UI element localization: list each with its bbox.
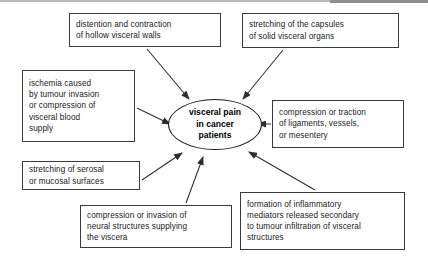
- node-stretching-serosal[interactable]: stretching of serosal or mucosal surface…: [22, 161, 140, 190]
- node-line: distention and contraction: [76, 19, 214, 30]
- node-distention-contraction[interactable]: distention and contraction of hollow vis…: [69, 13, 221, 47]
- arrow-capsules-to-center: [243, 50, 283, 99]
- node-line: formation of inflammatory: [247, 199, 398, 210]
- node-compression-invasion-neural[interactable]: compression or invasion of neural struct…: [80, 205, 232, 248]
- center-node-line: patients: [199, 130, 232, 141]
- node-line: stretching of the capsules: [249, 19, 392, 30]
- node-line: compression or invasion of: [87, 210, 225, 221]
- node-line: of hollow visceral walls: [76, 30, 214, 41]
- node-line: or compression of: [29, 100, 128, 111]
- node-line: by tumour invasion: [29, 89, 128, 100]
- node-line: visceral blood: [29, 112, 128, 123]
- center-node-line: in cancer: [196, 119, 234, 130]
- node-ischemia[interactable]: ischemia caused by tumour invasion or co…: [22, 70, 135, 142]
- arrow-ischemia-to-center: [137, 108, 170, 124]
- node-line: of ligaments, vessels,: [279, 118, 397, 129]
- node-stretching-capsules[interactable]: stretching of the capsules of solid visc…: [242, 13, 399, 48]
- node-line: to tumour infiltration of visceral: [247, 221, 398, 232]
- node-line: or mesentery: [279, 130, 397, 141]
- node-line: ischemia caused: [29, 78, 128, 89]
- node-inflammatory-mediators[interactable]: formation of inflammatory mediators rele…: [240, 192, 405, 250]
- diagram-canvas: distention and contraction of hollow vis…: [0, 0, 428, 265]
- node-line: stretching of serosal: [29, 164, 133, 175]
- arrow-neural-to-center: [186, 157, 203, 203]
- node-line: mediators released secondary: [247, 210, 398, 221]
- node-line: neural structures supplying: [87, 221, 225, 232]
- node-line: structures: [247, 232, 398, 243]
- node-compression-traction-ligaments[interactable]: compression or traction of ligaments, ve…: [272, 100, 404, 148]
- arrow-distention-to-center: [147, 49, 189, 99]
- node-line: the viscera: [87, 232, 225, 243]
- node-line: supply: [29, 123, 128, 134]
- node-line: of solid visceral organs: [249, 31, 392, 42]
- center-node-visceral-pain[interactable]: visceral pain in cancer patients: [168, 99, 262, 150]
- node-line: compression or traction: [279, 107, 397, 118]
- center-node-line: visceral pain: [189, 107, 241, 118]
- arrow-inflammatory-to-center: [249, 152, 315, 190]
- arrow-serosal-to-center: [142, 153, 182, 180]
- node-line: or mucosal surfaces: [29, 176, 133, 187]
